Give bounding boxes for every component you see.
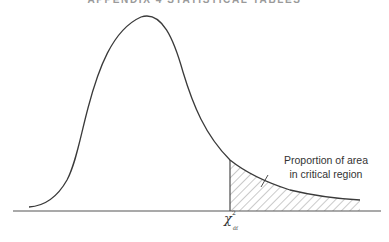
critical-value-label: χ2df <box>224 212 241 228</box>
annotation-line-2: in critical region <box>276 167 376 181</box>
chi-superscript: 2 <box>232 209 236 216</box>
chi-subscript: df <box>233 225 238 231</box>
annotation-line-1: Proportion of area <box>276 153 376 167</box>
critical-region-annotation: Proportion of area in critical region <box>276 153 376 181</box>
chi-square-chart <box>0 0 389 242</box>
chi-symbol: χ <box>224 211 232 226</box>
